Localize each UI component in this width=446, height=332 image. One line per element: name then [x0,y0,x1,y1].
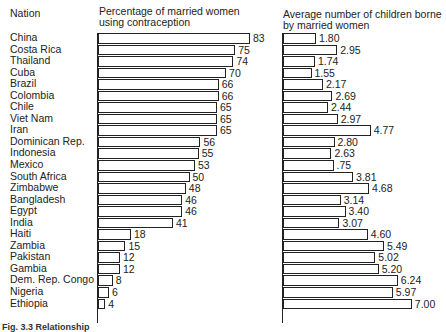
bar [283,252,375,263]
bar [283,299,412,310]
bar [283,68,312,79]
value-label: 46 [185,205,197,217]
value-label: 5.20 [382,263,402,275]
value-label: 65 [220,124,232,136]
bar [283,206,346,217]
bar [283,275,398,286]
bar [283,137,335,148]
bar [283,160,334,171]
bar [98,195,182,206]
value-label: 2.63 [334,147,354,159]
bar [283,172,353,183]
bar [98,252,120,263]
bar [98,45,235,56]
bar [98,264,120,275]
bar [283,148,331,159]
value-label: 5.49 [387,240,407,252]
bar [98,160,195,171]
value-label: 2.17 [326,78,346,90]
value-label: 53 [198,159,210,171]
nation-label: Nigeria [10,286,94,298]
value-label: 56 [203,136,215,148]
value-label: 2.95 [340,44,360,56]
value-label: 65 [220,113,232,125]
bar [283,79,323,90]
value-label: 7.00 [415,298,435,310]
value-label: 50 [193,171,205,183]
bar [98,33,250,44]
value-label: 83 [253,32,265,44]
value-label: 3.81 [356,171,376,183]
bar [283,287,393,298]
value-label: 12 [123,251,135,263]
value-label: 41 [176,217,188,229]
value-label: 2.69 [335,90,355,102]
value-label: 1.80 [319,32,339,44]
value-label: 12 [123,263,135,275]
bar [283,56,315,67]
bar [98,172,190,183]
nation-label: Mexico [10,159,94,171]
bar [98,137,200,148]
value-label: 3.40 [349,205,369,217]
bar [98,91,219,102]
value-label: 4 [108,298,114,310]
bar [283,125,371,136]
bar [98,183,186,194]
bar [98,79,219,90]
bar [98,275,113,286]
bar [283,229,368,240]
value-label: 5.97 [396,286,416,298]
nation-label: Zimbabwe [10,182,94,194]
value-label: 8 [116,274,122,286]
value-label: 4.77 [374,124,394,136]
bar [98,218,173,229]
value-label: 18 [134,228,146,240]
bar [98,114,217,125]
bar [283,218,339,229]
value-label: 4.60 [371,228,391,240]
value-label: 3.07 [342,217,362,229]
nation-label: Brazil [10,78,94,90]
bar [283,241,384,252]
bar [98,206,182,217]
value-label: 2.80 [338,136,358,148]
nation-label: China [10,32,94,44]
nation-label: Thailand [10,55,94,67]
bar [98,56,233,67]
value-label: 65 [220,101,232,113]
value-label: 74 [236,55,248,67]
bar [98,102,217,113]
value-label: 6 [112,286,118,298]
value-label: .75 [337,159,352,171]
bar [283,195,341,206]
bar [98,125,217,136]
value-label: 55 [202,147,214,159]
bar [98,287,109,298]
bar [98,229,131,240]
value-label: 2.44 [331,101,351,113]
bar [98,241,125,252]
bar [98,148,199,159]
children-chart-title: Average number of children borne by marr… [283,9,446,31]
value-label: 3.14 [344,194,364,206]
value-label: 6.24 [401,274,421,286]
bar [283,45,337,56]
value-label: 46 [185,194,197,206]
contraception-chart-title: Percentage of married women using contra… [99,6,259,28]
nation-list: ChinaCosta RicaThailandCubaBrazilColombi… [10,32,94,309]
value-label: 48 [189,182,201,194]
value-label: 15 [128,240,140,252]
bar [283,183,369,194]
bar [283,33,316,44]
value-label: 70 [229,67,241,79]
value-label: 66 [222,78,234,90]
value-label: 5.02 [378,251,398,263]
nation-label: Ethiopia [10,298,94,310]
value-label: 75 [238,44,250,56]
value-label: 2.97 [341,113,361,125]
value-label: 1.55 [315,67,335,79]
value-label: 66 [222,90,234,102]
bar [283,264,379,275]
figure-caption: Fig. 3.3 Relationship [2,322,90,332]
